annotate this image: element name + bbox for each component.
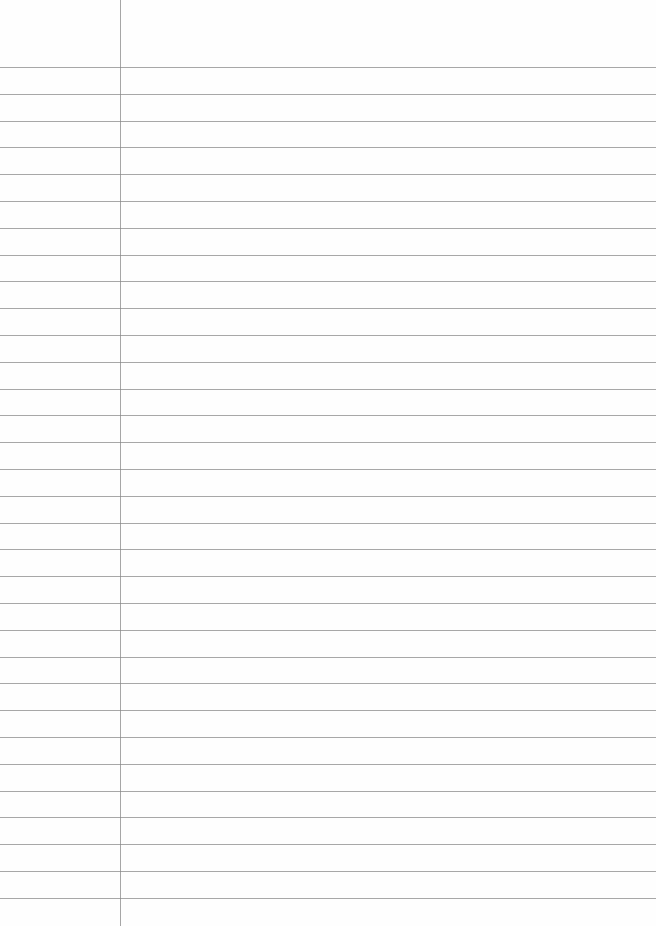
ruled-line [0, 603, 656, 604]
ruled-line [0, 683, 656, 684]
ruled-line [0, 469, 656, 470]
ruled-line [0, 898, 656, 899]
ruled-line [0, 281, 656, 282]
ruled-line [0, 389, 656, 390]
ruled-line [0, 362, 656, 363]
ruled-line [0, 147, 656, 148]
ruled-line [0, 871, 656, 872]
ruled-line [0, 94, 656, 95]
lined-paper-sheet [0, 0, 656, 926]
ruled-line [0, 576, 656, 577]
ruled-line [0, 496, 656, 497]
ruled-line [0, 67, 656, 68]
ruled-line [0, 255, 656, 256]
ruled-line [0, 335, 656, 336]
ruled-line [0, 817, 656, 818]
ruled-line [0, 791, 656, 792]
margin-line [120, 0, 121, 926]
ruled-line [0, 737, 656, 738]
ruled-line [0, 228, 656, 229]
ruled-line [0, 710, 656, 711]
ruled-line [0, 308, 656, 309]
ruled-line [0, 764, 656, 765]
ruled-line [0, 523, 656, 524]
ruled-line [0, 201, 656, 202]
ruled-line [0, 630, 656, 631]
ruled-line [0, 549, 656, 550]
ruled-line [0, 442, 656, 443]
ruled-line [0, 657, 656, 658]
ruled-line [0, 415, 656, 416]
ruled-line [0, 121, 656, 122]
ruled-line [0, 844, 656, 845]
ruled-line [0, 174, 656, 175]
